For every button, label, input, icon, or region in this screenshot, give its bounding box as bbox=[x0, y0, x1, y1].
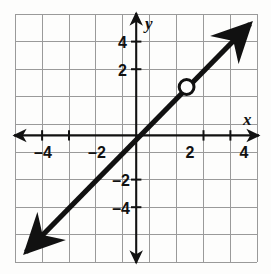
x-tick-label-neg4: –4 bbox=[34, 144, 52, 161]
open-circle-hole-marker bbox=[179, 80, 194, 95]
coordinate-graph-figure: y x 4 2 –2 –4 –4 –2 2 4 bbox=[0, 0, 271, 274]
y-tick-label-4: 4 bbox=[118, 34, 127, 51]
graph-canvas: y x 4 2 –2 –4 –4 –2 2 4 bbox=[0, 0, 271, 274]
y-axis-label: y bbox=[143, 14, 153, 33]
line-y-equals-x bbox=[26, 24, 250, 252]
x-tick-label-neg2: –2 bbox=[88, 144, 106, 161]
y-tick-label-neg2: –2 bbox=[112, 172, 130, 189]
x-tick-label-2: 2 bbox=[186, 144, 195, 161]
y-tick-label-2: 2 bbox=[118, 62, 127, 79]
y-tick-label-neg4: –4 bbox=[112, 200, 130, 217]
x-axis-label: x bbox=[242, 110, 252, 129]
x-tick-label-4: 4 bbox=[240, 144, 249, 161]
